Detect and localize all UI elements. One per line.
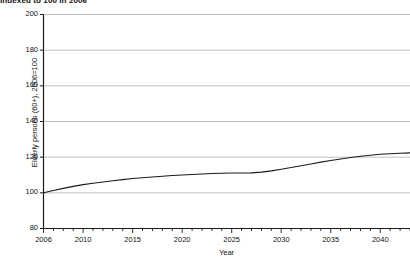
x-axis-ticks — [44, 229, 410, 234]
x-tick-label-2030: 2030 — [261, 236, 301, 244]
x-tick-label-2040: 2040 — [360, 236, 400, 244]
y-tick-label-180: 180 — [4, 46, 38, 54]
x-tick-label-2006: 2006 — [24, 236, 64, 244]
y-tick-label-160: 160 — [4, 81, 38, 89]
x-tick-label-2015: 2015 — [113, 236, 153, 244]
x-tick-label-2020: 2020 — [162, 236, 202, 244]
line-chart: Indexed to 100 in 2006 Elderly persons (… — [0, 0, 410, 264]
y-tick-label-140: 140 — [4, 117, 38, 125]
gridlines — [44, 15, 410, 193]
plot-area — [0, 0, 410, 264]
y-tick-label-200: 200 — [4, 10, 38, 18]
x-tick-label-2025: 2025 — [212, 236, 252, 244]
x-tick-label-2010: 2010 — [63, 236, 103, 244]
data-series-line — [44, 153, 410, 193]
y-tick-label-100: 100 — [4, 188, 38, 196]
y-tick-label-80: 80 — [4, 224, 38, 232]
x-tick-label-2035: 2035 — [311, 236, 351, 244]
y-tick-label-120: 120 — [4, 153, 38, 161]
